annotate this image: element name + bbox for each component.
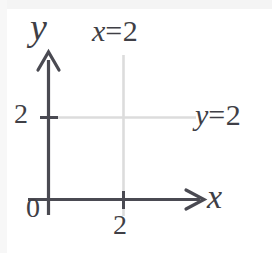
x-axis-tick-label-2: 2 [113,211,127,239]
line-label-y-variable: y [195,98,208,131]
x-axis-label: x [207,180,222,214]
y-axis-tick-label-2: 2 [14,100,28,128]
line-label-x-equals-2: x=2 [92,16,138,46]
line-label-y-equals-sign: = [208,98,225,131]
line-label-y-equals-2: y=2 [195,100,241,130]
y-axis-label: y [30,8,47,46]
line-label-y-value: 2 [226,98,241,131]
coordinate-axes-figure: y x x=2 y=2 0 2 2 [0,0,272,253]
line-label-x-variable: x [92,14,105,47]
origin-label: 0 [26,194,40,222]
line-label-x-equals-sign: = [105,14,122,47]
line-label-x-value: 2 [123,14,138,47]
